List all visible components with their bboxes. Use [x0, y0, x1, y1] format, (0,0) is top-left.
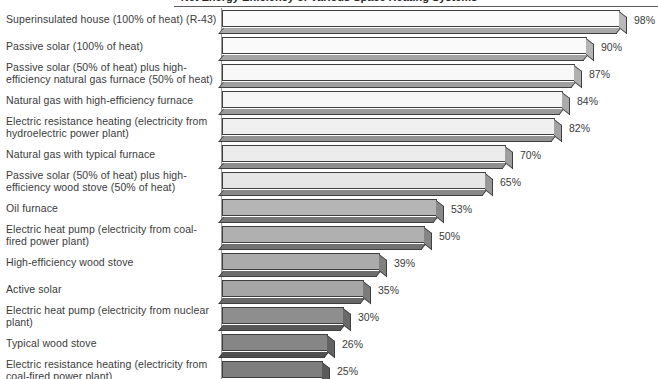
bar-row: Passive solar (100% of heat)90% [0, 35, 658, 62]
bar-bottom-face [218, 271, 381, 277]
bar-bottom-face [218, 28, 621, 34]
bar-bottom-face [218, 109, 564, 115]
bar-row: High-efficiency wood stove39% [0, 251, 658, 278]
bar-value-label: 53% [451, 203, 472, 215]
category-label: Passive solar (50% of heat) plus high-ef… [6, 61, 218, 86]
bar-end-cap [436, 200, 444, 223]
bar-end-cap [322, 362, 330, 379]
bar-end-cap [619, 11, 627, 34]
bar-3d[interactable] [222, 307, 344, 324]
bar-bottom-face [218, 190, 487, 196]
bar-end-cap [327, 335, 335, 358]
bar-value-label: 26% [342, 338, 363, 350]
bar-end-cap [505, 146, 513, 169]
bar-3d[interactable] [222, 64, 575, 81]
bar-face [222, 91, 563, 108]
bar-3d[interactable] [222, 199, 437, 216]
bar-value-label: 30% [358, 311, 379, 323]
bar-bottom-face [218, 163, 507, 169]
bar-face [222, 307, 344, 324]
header-rule [174, 6, 658, 7]
bar-row: Electric resistance heating (electricity… [0, 359, 658, 379]
bar-3d[interactable] [222, 253, 380, 270]
bar-end-cap [574, 65, 582, 88]
bar-end-cap [343, 308, 351, 331]
bar-3d[interactable] [222, 37, 587, 54]
bar-bottom-face [218, 325, 345, 331]
category-label: Electric heat pump (electricity from nuc… [6, 304, 218, 329]
category-label: Natural gas with typical furnace [6, 148, 218, 160]
bar-3d[interactable] [222, 118, 555, 135]
category-label: High-efficiency wood stove [6, 256, 218, 268]
bar-face [222, 253, 380, 270]
bar-row: Natural gas with high-efficiency furnace… [0, 89, 658, 116]
bar-value-label: 39% [394, 257, 415, 269]
bar-row: Passive solar (50% of heat) plus high-ef… [0, 170, 658, 197]
bar-end-cap [485, 173, 493, 196]
bar-face [222, 37, 587, 54]
bar-row: Electric resistance heating (electricity… [0, 116, 658, 143]
bar-3d[interactable] [222, 334, 328, 351]
bar-bottom-face [218, 136, 556, 142]
bar-end-cap [554, 119, 562, 142]
bar-face [222, 361, 323, 378]
category-label: Passive solar (100% of heat) [6, 40, 218, 52]
bar-row: Superinsulated house (100% of heat) (R-4… [0, 8, 658, 35]
bar-bottom-face [218, 298, 365, 304]
bar-row: Oil furnace53% [0, 197, 658, 224]
bar-row: Electric heat pump (electricity from coa… [0, 224, 658, 251]
bar-value-label: 87% [589, 68, 610, 80]
bar-row: Passive solar (50% of heat) plus high-ef… [0, 62, 658, 89]
bar-row: Typical wood stove26% [0, 332, 658, 359]
bar-value-label: 25% [337, 365, 358, 377]
bar-face [222, 226, 425, 243]
bar-end-cap [424, 227, 432, 250]
category-label: Electric resistance heating (electricity… [6, 358, 218, 379]
bar-bottom-face [218, 352, 329, 358]
bar-face [222, 199, 437, 216]
bar-face [222, 10, 620, 27]
bar-bottom-face [218, 55, 588, 61]
bar-3d[interactable] [222, 145, 506, 162]
bar-value-label: 70% [520, 149, 541, 161]
bar-bottom-face [218, 82, 576, 88]
bar-face [222, 334, 328, 351]
bar-value-label: 82% [569, 122, 590, 134]
bar-face [222, 145, 506, 162]
bar-value-label: 65% [500, 176, 521, 188]
bar-face [222, 280, 364, 297]
chart-title-clipped: Net Energy Efficiency of Various Space H… [0, 0, 658, 3]
bar-value-label: 84% [577, 95, 598, 107]
bar-3d[interactable] [222, 10, 620, 27]
category-label: Oil furnace [6, 202, 218, 214]
bar-face [222, 118, 555, 135]
bar-value-label: 98% [634, 14, 655, 26]
bar-value-label: 50% [439, 230, 460, 242]
bar-3d[interactable] [222, 361, 323, 378]
bar-rows: Superinsulated house (100% of heat) (R-4… [0, 8, 658, 379]
category-label: Active solar [6, 283, 218, 295]
bar-end-cap [562, 92, 570, 115]
bar-3d[interactable] [222, 280, 364, 297]
category-label: Passive solar (50% of heat) plus high-ef… [6, 169, 218, 194]
bar-row: Electric heat pump (electricity from nuc… [0, 305, 658, 332]
bar-end-cap [379, 254, 387, 277]
bar-3d[interactable] [222, 226, 425, 243]
category-label: Typical wood stove [6, 337, 218, 349]
bar-bottom-face [218, 217, 438, 223]
category-label: Superinsulated house (100% of heat) (R-4… [6, 13, 218, 25]
bar-value-label: 35% [378, 284, 399, 296]
efficiency-bar-chart: Net Energy Efficiency of Various Space H… [0, 0, 658, 379]
bar-end-cap [586, 38, 594, 61]
bar-3d[interactable] [222, 91, 563, 108]
category-label: Electric heat pump (electricity from coa… [6, 223, 218, 248]
bar-row: Active solar35% [0, 278, 658, 305]
bar-row: Natural gas with typical furnace70% [0, 143, 658, 170]
bar-end-cap [363, 281, 371, 304]
bar-face [222, 64, 575, 81]
bar-3d[interactable] [222, 172, 486, 189]
category-label: Natural gas with high-efficiency furnace [6, 94, 218, 106]
bar-bottom-face [218, 244, 426, 250]
category-label: Electric resistance heating (electricity… [6, 115, 218, 140]
bar-value-label: 90% [601, 41, 622, 53]
